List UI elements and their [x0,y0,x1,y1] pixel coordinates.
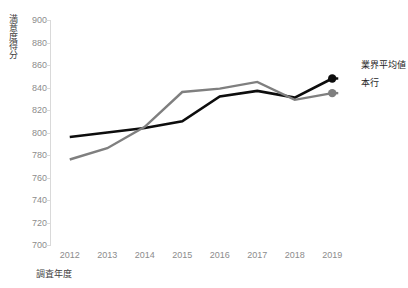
x-tick-label: 2016 [210,250,230,260]
plot-area [51,20,351,245]
x-tick-label: 2017 [247,250,267,260]
x-tick-label: 2018 [285,250,305,260]
legend-label-this-bank: 本行 [361,78,379,88]
y-tick-label: 820 [21,105,47,115]
x-axis-title: 調査年度 [36,267,72,280]
series-lines [51,20,351,245]
series-line [70,82,333,160]
x-axis-tick-labels: 20122013201420152016201720182019 [51,250,351,264]
y-tick-label: 780 [21,150,47,160]
legend-item-this-bank: 本行 [361,74,407,92]
y-tick-label: 800 [21,128,47,138]
series-line [70,79,333,138]
y-axis-tick-labels: 900880860840820800780760740720700 [21,20,47,245]
y-tick-label: 760 [21,173,47,183]
legend-label-industry-average: 業界平均値 [361,60,406,70]
line-chart: 満意度得分 900880860840820800780760740720700 … [0,0,408,288]
legend-item-industry-average: 業界平均値 [361,56,407,74]
x-tick-label: 2015 [172,250,192,260]
y-tick-label: 740 [21,195,47,205]
y-tick-label: 880 [21,38,47,48]
x-tick-label: 2019 [322,250,342,260]
y-tick-label: 900 [21,15,47,25]
y-tick-label: 840 [21,83,47,93]
y-tick-label: 720 [21,218,47,228]
chart-legend: 業界平均値 本行 [361,56,407,92]
x-tick-label: 2014 [135,250,155,260]
y-axis-title: 満意度得分 [4,14,18,84]
y-tick-label: 700 [21,240,47,250]
x-tick-label: 2012 [60,250,80,260]
x-tick-label: 2013 [97,250,117,260]
y-tick-label: 860 [21,60,47,70]
